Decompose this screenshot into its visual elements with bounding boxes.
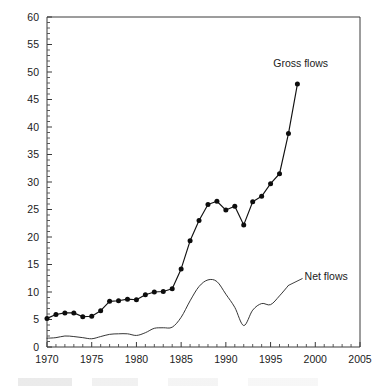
x-tick-label: 1990	[214, 353, 238, 365]
x-tick-label: 1980	[125, 353, 149, 365]
y-tick-label: 10	[27, 286, 39, 298]
y-tick-label: 50	[27, 66, 39, 78]
data-point	[268, 181, 273, 186]
data-point	[295, 82, 300, 87]
data-point	[80, 314, 85, 319]
data-point	[197, 218, 202, 223]
data-point	[152, 290, 157, 295]
line-chart: 051015202530354045505560 197019751980198…	[0, 0, 388, 388]
data-point	[89, 314, 94, 319]
x-tick-label: 1970	[35, 353, 59, 365]
data-point	[71, 310, 76, 315]
data-point	[286, 131, 291, 136]
data-point	[277, 171, 282, 176]
series-label-gross-flows: Gross flows	[273, 57, 328, 69]
data-point	[53, 312, 58, 317]
chart-background	[0, 0, 388, 388]
data-point	[214, 199, 219, 204]
x-tick-label: 1975	[80, 353, 104, 365]
data-point	[143, 292, 148, 297]
series-label-net-flows: Net flows	[305, 270, 348, 282]
data-point	[125, 297, 130, 302]
data-point	[179, 266, 184, 271]
x-tick-label: 2005	[348, 353, 372, 365]
x-tick-label: 1985	[169, 353, 193, 365]
y-tick-label: 5	[33, 313, 39, 325]
data-point	[107, 299, 112, 304]
y-tick-label: 55	[27, 38, 39, 50]
y-tick-label: 30	[27, 176, 39, 188]
x-tick-label: 1995	[259, 353, 283, 365]
data-point	[134, 297, 139, 302]
x-tick-label: 2000	[304, 353, 328, 365]
data-point	[232, 204, 237, 209]
data-point	[259, 194, 264, 199]
y-tick-label: 0	[33, 341, 39, 353]
data-point	[188, 238, 193, 243]
data-point	[223, 208, 228, 213]
footer-caption-fragment	[18, 378, 358, 386]
y-tick-label: 35	[27, 148, 39, 160]
chart-container: 051015202530354045505560 197019751980198…	[0, 0, 388, 388]
data-point	[116, 298, 121, 303]
y-tick-label: 45	[27, 93, 39, 105]
y-tick-label: 15	[27, 258, 39, 270]
data-point	[62, 310, 67, 315]
y-tick-label: 20	[27, 231, 39, 243]
y-tick-label: 25	[27, 203, 39, 215]
data-point	[170, 286, 175, 291]
data-point	[98, 308, 103, 313]
data-point	[250, 199, 255, 204]
data-point	[205, 202, 210, 207]
data-point	[241, 222, 246, 227]
data-point	[45, 316, 50, 321]
y-tick-label: 60	[27, 11, 39, 23]
y-tick-label: 40	[27, 121, 39, 133]
data-point	[161, 289, 166, 294]
